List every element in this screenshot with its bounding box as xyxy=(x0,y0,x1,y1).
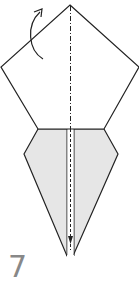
kite-body xyxy=(24,129,118,256)
step-number: 7 xyxy=(8,252,27,281)
origami-diagram xyxy=(0,0,139,281)
